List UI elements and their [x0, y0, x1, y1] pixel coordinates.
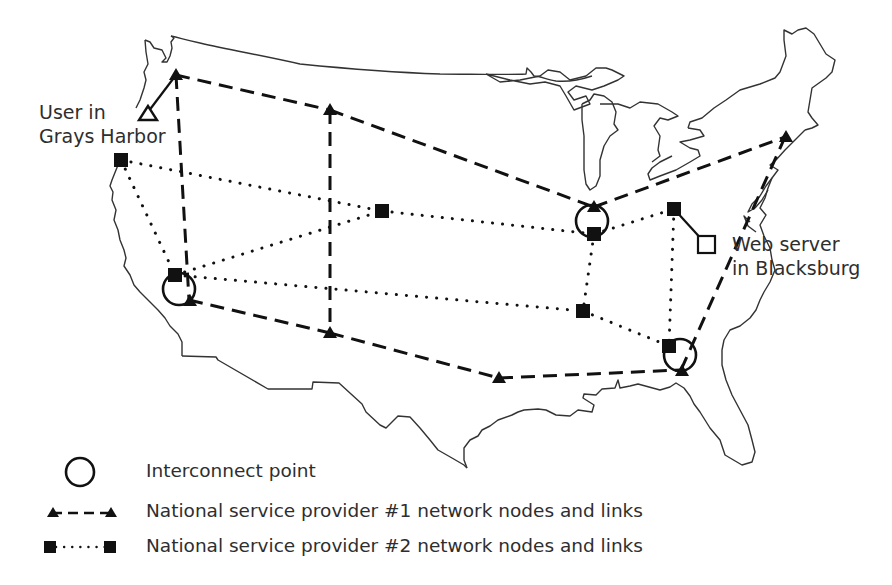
- link-chicago2-memphis: [583, 234, 594, 311]
- link-seattle-sf: [176, 75, 189, 300]
- web-server-square-icon: [698, 236, 715, 253]
- california-coast: [110, 155, 182, 356]
- square-node-icon-denver-2: [375, 204, 389, 218]
- link-sf-dallas: [189, 300, 330, 333]
- square-node-icon-atlanta-2: [662, 339, 676, 353]
- legend-item-provider1: National service provider #1 network nod…: [146, 500, 643, 521]
- user-label: User in Grays Harbor: [39, 100, 166, 148]
- square-node-icon-portland: [114, 153, 128, 167]
- network-map: [0, 0, 892, 585]
- lake-erie-ontario: [648, 128, 704, 180]
- west-coast-outline: [171, 36, 592, 81]
- legend-interconnect-icon: [66, 458, 94, 486]
- link-sf2-memphis: [175, 275, 583, 311]
- legend-square-left-icon: [44, 541, 56, 553]
- lake-michigan-huron: [582, 94, 678, 190]
- legend-item-provider2: National service provider #2 network nod…: [146, 535, 643, 556]
- link-dallas-houston: [330, 333, 499, 378]
- link-denver2-chicago2: [382, 211, 594, 234]
- square-node-icon-memphis: [576, 304, 590, 318]
- link-houston-atlanta: [499, 370, 681, 378]
- link-memphis-atlanta2: [583, 311, 669, 346]
- triangle-node-icon-seattle: [169, 68, 183, 80]
- link-denver-chicago: [330, 110, 594, 207]
- link-sf2-denver2: [175, 211, 382, 275]
- link-seattle-denver: [176, 75, 330, 110]
- server-label-line1: Web server: [732, 232, 860, 256]
- legend-symbols: [44, 458, 117, 553]
- interconnect-points: [163, 205, 696, 371]
- triangle-node-icon-boston: [779, 130, 793, 142]
- provider2-nodes: [114, 153, 681, 353]
- legend-item-interconnect: Interconnect point: [146, 460, 316, 481]
- new-england-outline: [688, 28, 835, 130]
- square-node-icon-sf: [168, 268, 182, 282]
- legend-square-right-icon: [104, 541, 116, 553]
- user-label-line2: Grays Harbor: [39, 124, 166, 148]
- us-outline: [110, 28, 835, 468]
- user-label-line1: User in: [39, 100, 166, 124]
- server-label: Web server in Blacksburg: [732, 232, 860, 280]
- square-node-icon-chicago-2: [587, 227, 601, 241]
- triangle-node-icon-denver: [323, 103, 337, 115]
- chesapeake-outline: [744, 178, 772, 232]
- server-label-line2: in Blacksburg: [732, 256, 860, 280]
- square-node-icon-dc: [667, 202, 681, 216]
- gulf-coast: [464, 292, 764, 468]
- link-dc-atlanta2: [669, 209, 674, 346]
- pacific-northwest-coast: [136, 36, 174, 108]
- mexico-border: [182, 356, 467, 468]
- provider2-links: [121, 160, 674, 346]
- link-portland-denver2: [121, 160, 382, 211]
- provider1-nodes: [169, 68, 793, 383]
- link-portland-sf2: [121, 160, 175, 275]
